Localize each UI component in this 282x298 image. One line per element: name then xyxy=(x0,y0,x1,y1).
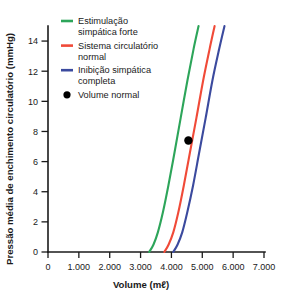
series-curve xyxy=(173,26,224,252)
y-tick-label: 6 xyxy=(33,157,38,167)
y-axis-ticks: 02468101214 xyxy=(28,36,48,257)
y-tick-label: 2 xyxy=(33,217,38,227)
y-tick-label: 4 xyxy=(33,187,38,197)
legend-item-label: Inibição simpática xyxy=(78,65,152,75)
circulatory-filling-pressure-chart: 02468101214 01.0002.0003.0004.0005.0006.… xyxy=(0,0,282,298)
x-tick-label: 5.000 xyxy=(191,262,214,272)
x-axis-title: Volume (mℓ) xyxy=(113,279,169,290)
y-tick-label: 10 xyxy=(28,97,38,107)
x-tick-label: 3.000 xyxy=(129,262,152,272)
x-tick-label: 6.000 xyxy=(222,262,245,272)
legend-item-label-cont: completa xyxy=(78,76,116,86)
legend-item-label-cont: simpática forte xyxy=(78,27,138,37)
y-axis-title: Pressão média de enchimento circulatório… xyxy=(4,33,15,265)
x-axis-ticks: 01.0002.0003.0004.0005.0006.0007.000 xyxy=(45,252,275,272)
data-points xyxy=(184,136,192,144)
legend-dot-swatch xyxy=(63,91,70,98)
chart-figure: 02468101214 01.0002.0003.0004.0005.0006.… xyxy=(0,0,282,298)
y-tick-label: 12 xyxy=(28,67,38,77)
x-tick-label: 4.000 xyxy=(160,262,183,272)
y-tick-label: 8 xyxy=(33,127,38,137)
chart-legend: Estimulaçãosimpática forteSistema circul… xyxy=(61,16,158,100)
x-tick-label: 7.000 xyxy=(253,262,276,272)
y-tick-label: 14 xyxy=(28,36,38,46)
legend-item-label: Volume normal xyxy=(78,90,139,100)
x-tick-label: 2.000 xyxy=(98,262,121,272)
y-tick-label: 0 xyxy=(33,247,38,257)
legend-item-label-cont: normal xyxy=(78,52,106,62)
legend-item-label: Estimulação xyxy=(78,16,128,26)
normal-volume-point xyxy=(184,136,192,144)
x-tick-label: 0 xyxy=(45,262,50,272)
x-tick-label: 1.000 xyxy=(68,262,91,272)
legend-item-label: Sistema circulatório xyxy=(78,41,158,51)
